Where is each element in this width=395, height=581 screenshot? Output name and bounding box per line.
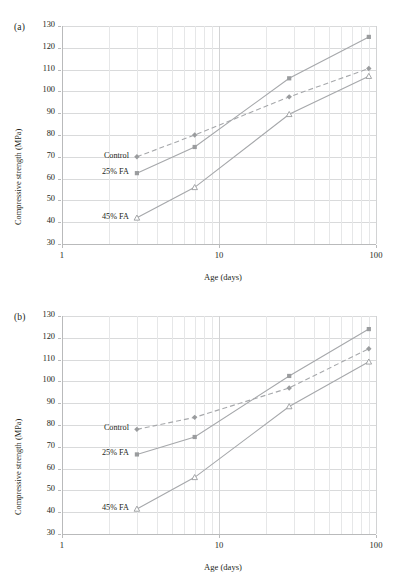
y-axis-tick-mark: [58, 403, 61, 404]
figure-caption-strip: [0, 568, 395, 581]
plot-area-a: 30405060708090100110120130110100Control2…: [62, 26, 376, 244]
y-axis-tick-mark: [58, 338, 61, 339]
y-axis-label-a: Compressive strength (MPa): [14, 129, 23, 225]
chart-panel-a: (a) Compressive strength (MPa) 304050607…: [0, 0, 395, 290]
y-axis-tick-label: 100: [29, 375, 55, 384]
data-point-marker: [193, 435, 197, 439]
data-point-marker: [134, 215, 140, 220]
data-point-marker: [287, 374, 291, 378]
y-axis-tick-mark: [58, 244, 61, 245]
y-axis-tick-mark: [58, 48, 61, 49]
x-gridline-major: [376, 316, 377, 534]
series-label-control: Control: [51, 423, 129, 432]
x-axis-tick-mark: [219, 535, 220, 538]
y-axis-tick-mark: [58, 360, 61, 361]
x-axis-tick-label: 10: [204, 540, 234, 550]
data-point-marker: [366, 346, 371, 351]
y-axis-tick-mark: [58, 26, 61, 27]
data-point-marker: [193, 145, 197, 149]
x-gridline-major: [376, 26, 377, 244]
y-axis-tick-mark: [58, 70, 61, 71]
figure-page: (a) Compressive strength (MPa) 304050607…: [0, 0, 395, 581]
data-point-marker: [286, 404, 292, 409]
series-label-control: Control: [51, 151, 129, 160]
y-axis-tick-mark: [58, 113, 61, 114]
x-axis-tick-label: 100: [361, 540, 391, 550]
y-axis-tick-label: 100: [29, 85, 55, 94]
x-axis-label-a: Age (days): [204, 272, 242, 282]
y-axis-tick-mark: [58, 490, 61, 491]
panel-label-b: (b): [14, 312, 26, 322]
series-line-45-fa: [137, 76, 369, 218]
series-line-25-fa: [137, 329, 369, 454]
y-axis-tick-mark: [58, 222, 61, 223]
data-point-marker: [286, 111, 292, 116]
y-axis-tick-label: 50: [29, 484, 55, 493]
x-axis-tick-mark: [376, 245, 377, 248]
series-line-control: [137, 69, 369, 157]
y-axis-tick-label: 80: [29, 129, 55, 138]
y-axis-tick-label: 120: [29, 332, 55, 341]
data-point-marker: [366, 73, 372, 78]
y-axis-tick-label: 30: [29, 528, 55, 537]
y-axis-tick-mark: [58, 179, 61, 180]
y-axis-tick-label: 50: [29, 194, 55, 203]
x-axis-tick-mark: [62, 535, 63, 538]
data-point-marker: [135, 452, 139, 456]
data-point-marker: [286, 94, 291, 99]
x-axis-tick-mark: [219, 245, 220, 248]
data-point-marker: [286, 385, 291, 390]
y-axis-tick-mark: [58, 512, 61, 513]
y-axis-tick-label: 130: [29, 20, 55, 29]
data-point-marker: [367, 327, 371, 331]
data-point-marker: [134, 154, 139, 159]
y-axis-tick-mark: [58, 469, 61, 470]
series-label-fa45: 45% FA: [51, 503, 129, 512]
series-label-fa25: 25% FA: [51, 167, 129, 176]
y-axis-tick-label: 120: [29, 42, 55, 51]
y-axis-tick-mark: [58, 135, 61, 136]
series-label-fa45: 45% FA: [51, 212, 129, 221]
x-axis-tick-label: 1: [47, 540, 77, 550]
y-axis-tick-label: 60: [29, 463, 55, 472]
x-axis-tick-label: 100: [361, 250, 391, 260]
series-line-25-fa: [137, 37, 369, 173]
x-axis-tick-label: 10: [204, 250, 234, 260]
data-point-marker: [134, 427, 139, 432]
x-axis-tick-label: 1: [47, 250, 77, 260]
plot-area-b: 30405060708090100110120130110100Control2…: [62, 316, 376, 534]
y-axis-tick-label: 110: [29, 354, 55, 363]
chart-panel-b: (b) Compressive strength (MPa) 304050607…: [0, 290, 395, 580]
data-point-marker: [192, 415, 197, 420]
x-axis-tick-mark: [376, 535, 377, 538]
series-label-fa25: 25% FA: [51, 448, 129, 457]
y-axis-tick-mark: [58, 91, 61, 92]
data-point-marker: [134, 506, 140, 511]
panel-label-a: (a): [14, 22, 25, 32]
series-line-control: [137, 349, 369, 430]
y-axis-tick-label: 110: [29, 64, 55, 73]
data-point-marker: [366, 359, 372, 364]
x-axis-tick-mark: [62, 245, 63, 248]
y-axis-tick-mark: [58, 316, 61, 317]
y-axis-label-b: Compressive strength (MPa): [14, 419, 23, 515]
y-axis-tick-label: 90: [29, 107, 55, 116]
data-point-marker: [287, 76, 291, 80]
y-axis-tick-mark: [58, 381, 61, 382]
data-point-marker: [367, 35, 371, 39]
series-line-45-fa: [137, 362, 369, 509]
data-point-marker: [366, 66, 371, 71]
data-point-marker: [192, 132, 197, 137]
y-axis-tick-mark: [58, 534, 61, 535]
y-axis-tick-label: 30: [29, 238, 55, 247]
y-axis-tick-mark: [58, 200, 61, 201]
y-axis-tick-label: 90: [29, 397, 55, 406]
y-axis-tick-label: 130: [29, 310, 55, 319]
data-point-marker: [135, 171, 139, 175]
